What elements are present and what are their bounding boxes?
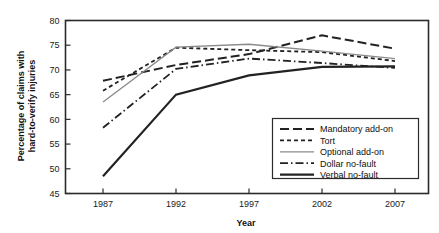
x-axis-title: Year xyxy=(236,218,256,228)
y-tick-label: 65 xyxy=(49,90,59,100)
line-chart: 4550556065707580 19871992199720022007 Ye… xyxy=(0,0,439,233)
y-tick-label: 80 xyxy=(49,16,59,26)
x-tick-label: 1992 xyxy=(166,199,186,209)
y-tick-label: 45 xyxy=(49,189,59,199)
x-tick-label: 2002 xyxy=(312,199,332,209)
y-tick-label: 50 xyxy=(49,164,59,174)
chart-figure: 4550556065707580 19871992199720022007 Ye… xyxy=(0,0,439,233)
y-tick-label: 75 xyxy=(49,40,59,50)
x-tick-label: 1987 xyxy=(93,199,113,209)
legend-label-dollar-no-fault: Dollar no-fault xyxy=(320,159,377,169)
x-tick-label: 1997 xyxy=(239,199,259,209)
y-axis-title-line1: Percentage of claims with xyxy=(16,51,26,162)
legend-label-mandatory-add-on: Mandatory add-on xyxy=(320,124,393,134)
legend-label-tort: Tort xyxy=(320,136,336,146)
chart-legend[interactable]: Mandatory add-onTortOptional add-onDolla… xyxy=(273,119,419,181)
y-tick-label: 60 xyxy=(49,115,59,125)
x-tick-label: 2007 xyxy=(385,199,405,209)
y-tick-label: 55 xyxy=(49,139,59,149)
legend-label-verbal-no-fault: Verbal no-fault xyxy=(320,170,379,180)
legend-label-optional-add-on: Optional add-on xyxy=(320,147,384,157)
y-axis-title-line2: hard-to-verify injuries xyxy=(27,60,37,153)
y-tick-label: 70 xyxy=(49,65,59,75)
